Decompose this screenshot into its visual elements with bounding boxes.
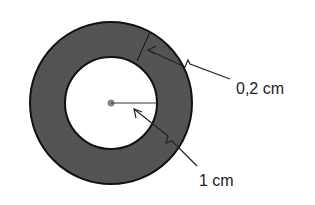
thickness-label: 0,2 cm — [236, 80, 284, 98]
annulus-figure — [0, 0, 315, 205]
inner-radius-label: 1 cm — [199, 172, 234, 190]
diagram-canvas: 0,2 cm 1 cm — [0, 0, 315, 205]
